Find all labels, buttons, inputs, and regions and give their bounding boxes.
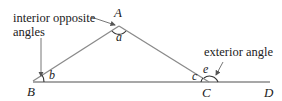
vertex-d-label: D: [263, 85, 274, 100]
angle-e-label: e: [203, 62, 209, 76]
vertex-a-label: A: [113, 5, 122, 20]
side-ab: [33, 26, 119, 81]
angle-e-arc: [204, 76, 218, 82]
angles-label: angles: [13, 25, 45, 39]
angle-b-arc: [42, 75, 44, 82]
vertex-b-label: B: [27, 84, 35, 99]
vertex-c-label: C: [202, 85, 211, 100]
exterior-angle-diagram: interior opposite angles exterior angle …: [0, 0, 282, 101]
angle-c-label: c: [192, 69, 198, 83]
angle-a-label: a: [116, 30, 122, 44]
interior-opposite-label: interior opposite: [13, 11, 96, 25]
angle-b-label: b: [49, 68, 55, 82]
exterior-arrow-to-e: [216, 62, 223, 75]
exterior-angle-label: exterior angle: [204, 45, 274, 59]
